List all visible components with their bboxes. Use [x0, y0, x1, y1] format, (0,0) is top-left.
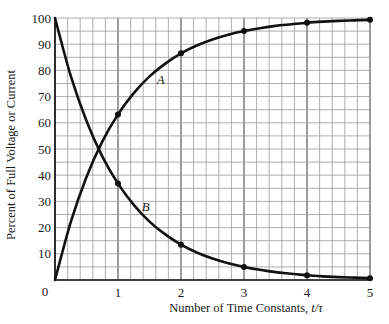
origin-tick-label: 0 [42, 284, 49, 299]
x-tick-label: 3 [241, 285, 248, 300]
y-tick-label: 100 [32, 11, 52, 26]
chart: 012345102030405060708090100 AB Percent o… [0, 0, 389, 324]
x-tick-label: 1 [115, 285, 122, 300]
y-axis-title: Percent of Full Voltage or Current [4, 69, 18, 240]
data-point-marker [115, 181, 121, 187]
curve-labels: AB [142, 72, 165, 215]
y-tick-label: 60 [38, 115, 51, 130]
y-tick-label: 50 [38, 142, 51, 157]
data-point-marker [304, 20, 310, 26]
y-tick-label: 10 [38, 246, 51, 261]
y-tick-label: 90 [38, 37, 51, 52]
y-tick-label: 40 [38, 168, 51, 183]
data-point-marker [178, 242, 184, 248]
x-tick-label: 2 [178, 285, 185, 300]
x-tick-label: 5 [367, 285, 374, 300]
y-tick-label: 20 [38, 220, 51, 235]
x-axis-title: Number of Time Constants, t/τ [169, 301, 323, 315]
x-axis-title-math: t/τ [311, 301, 323, 315]
data-point-marker [241, 264, 247, 270]
grid [55, 18, 370, 280]
data-point-marker [304, 272, 310, 278]
data-point-marker [367, 17, 373, 23]
data-point-marker [115, 111, 121, 117]
curve-label-b: B [142, 199, 150, 214]
tick-labels: 012345102030405060708090100 [32, 11, 374, 301]
y-tick-label: 80 [38, 63, 51, 78]
curve-label-a: A [156, 72, 165, 87]
data-point-marker [178, 50, 184, 56]
y-tick-label: 30 [38, 194, 51, 209]
data-point-marker [367, 275, 373, 281]
x-axis-title-text: Number of Time Constants, [169, 301, 311, 315]
data-point-marker [241, 28, 247, 34]
x-tick-label: 4 [304, 285, 311, 300]
y-tick-label: 70 [38, 89, 51, 104]
